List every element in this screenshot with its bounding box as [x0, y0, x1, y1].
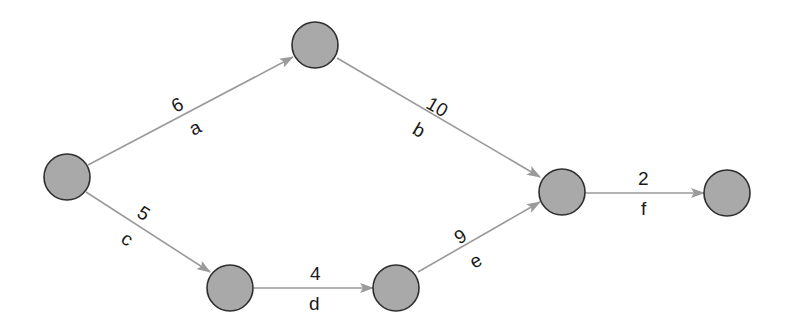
edge-f: 2 f	[585, 168, 704, 219]
edge-f-duration: 2	[638, 168, 649, 189]
edge-d: 4 d	[254, 263, 373, 314]
edge-e: 9 e	[418, 202, 540, 273]
node-1	[44, 154, 90, 200]
edge-c-duration: 5	[134, 202, 154, 225]
edge-e-activity: e	[466, 249, 486, 272]
edge-a-duration: 6	[168, 93, 187, 117]
edge-b-duration: 10	[423, 93, 452, 122]
node-5	[539, 169, 585, 215]
edge-a-activity: a	[185, 116, 204, 140]
node-4	[373, 265, 419, 311]
edge-c: 5 c	[86, 192, 210, 272]
edge-b-activity: b	[409, 118, 429, 141]
node-2	[292, 22, 338, 68]
node-6	[704, 170, 750, 216]
edge-f-activity: f	[641, 198, 647, 219]
edge-c-activity: c	[118, 228, 137, 251]
edge-d-activity: d	[309, 293, 320, 314]
arrow-a	[88, 57, 293, 165]
node-3	[207, 265, 253, 311]
edge-b: 10 b	[337, 58, 540, 177]
network-diagram: 6 a 10 b 5 c 4 d 9 e 2 f	[0, 0, 788, 333]
edge-a: 6 a	[88, 57, 293, 165]
edge-d-duration: 4	[310, 263, 321, 284]
